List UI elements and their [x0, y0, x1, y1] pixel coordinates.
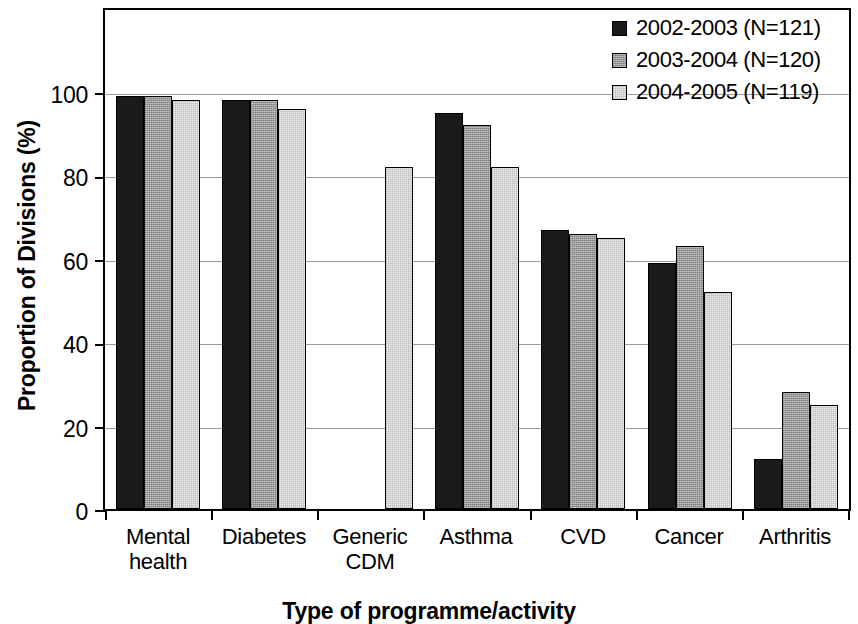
- bar-mental-health-2004-2005-n-119: [172, 100, 200, 509]
- bar-group-asthma: [435, 10, 519, 509]
- x-category-label-diabetes: Diabetes: [206, 524, 322, 549]
- bar-cancer-2004-2005-n-119: [704, 292, 732, 509]
- x-tick-mark-3: [423, 511, 425, 520]
- bar-cancer-2003-2004-n-120: [676, 246, 704, 509]
- bar-group-mental-health: [116, 10, 200, 509]
- x-tick-mark-1: [211, 511, 213, 520]
- bar-cvd-2004-2005-n-119: [597, 238, 625, 509]
- bar-cvd-2003-2004-n-120: [569, 234, 597, 509]
- x-tick-mark-4: [530, 511, 532, 520]
- x-category-label-cvd: CVD: [525, 524, 641, 549]
- bar-arthritis-2002-2003-n-121: [754, 459, 782, 509]
- x-category-line1: Generic: [333, 524, 408, 549]
- x-category-line1: Diabetes: [222, 524, 306, 549]
- x-category-line2: health: [100, 549, 216, 574]
- bar-asthma-2003-2004-n-120: [463, 125, 491, 509]
- y-tick-label-0: 0: [16, 499, 88, 526]
- medium-swatch-icon: [612, 53, 627, 68]
- bar-diabetes-2003-2004-n-120: [250, 100, 278, 509]
- bar-group-diabetes: [222, 10, 306, 509]
- x-category-label-cancer: Cancer: [631, 524, 747, 549]
- bar-arthritis-2003-2004-n-120: [782, 392, 810, 509]
- bar-asthma-2002-2003-n-121: [435, 113, 463, 509]
- bar-cancer-2002-2003-n-121: [648, 263, 676, 509]
- bar-diabetes-2002-2003-n-121: [222, 100, 250, 509]
- legend-item-label: 2003-2004 (N=120): [636, 47, 821, 73]
- bar-arthritis-2004-2005-n-119: [810, 405, 838, 509]
- x-category-line1: Arthritis: [759, 524, 831, 549]
- x-category-label-mental-health: Mental health: [100, 524, 216, 574]
- legend: 2002-2003 (N=121) 2003-2004 (N=120) 2004…: [612, 14, 844, 110]
- legend-item-label: 2002-2003 (N=121): [636, 15, 821, 41]
- legend-item-2003-2004: 2003-2004 (N=120): [612, 46, 844, 74]
- bar-mental-health-2003-2004-n-120: [144, 96, 172, 509]
- x-tick-mark-5: [636, 511, 638, 520]
- legend-item-2004-2005: 2004-2005 (N=119): [612, 78, 844, 106]
- x-axis-title: Type of programme/activity: [0, 598, 858, 624]
- bar-chart: Proportion of Divisions (%) 100 80 60 40…: [0, 0, 858, 624]
- bar-generic-cdm-2004-2005-n-119: [385, 167, 413, 509]
- light-swatch-icon: [612, 85, 627, 100]
- y-tick-label-100: 100: [16, 82, 88, 109]
- x-category-line2: CDM: [312, 549, 428, 574]
- bar-group-generic-cdm: [329, 10, 413, 509]
- y-tick-label-40: 40: [16, 332, 88, 359]
- x-category-label-asthma: Asthma: [418, 524, 534, 549]
- x-tick-mark-2: [317, 511, 319, 520]
- dark-swatch-icon: [612, 21, 627, 36]
- x-tick-mark-7: [848, 511, 850, 520]
- bar-asthma-2004-2005-n-119: [491, 167, 519, 509]
- x-category-line1: Mental: [126, 524, 190, 549]
- x-tick-mark-0: [105, 511, 107, 520]
- bar-mental-health-2002-2003-n-121: [116, 96, 144, 509]
- y-tick-label-20: 20: [16, 416, 88, 443]
- legend-item-2002-2003: 2002-2003 (N=121): [612, 14, 844, 42]
- x-category-line1: CVD: [560, 524, 606, 549]
- x-category-line1: Cancer: [654, 524, 723, 549]
- bar-diabetes-2004-2005-n-119: [278, 109, 306, 509]
- x-category-line1: Asthma: [440, 524, 513, 549]
- y-tick-label-80: 80: [16, 165, 88, 192]
- x-category-label-arthritis: Arthritis: [737, 524, 853, 549]
- x-tick-mark-6: [742, 511, 744, 520]
- bar-cvd-2002-2003-n-121: [541, 230, 569, 509]
- legend-item-label: 2004-2005 (N=119): [636, 79, 819, 105]
- y-tick-label-60: 60: [16, 249, 88, 276]
- x-category-label-generic-cdm: Generic CDM: [312, 524, 428, 574]
